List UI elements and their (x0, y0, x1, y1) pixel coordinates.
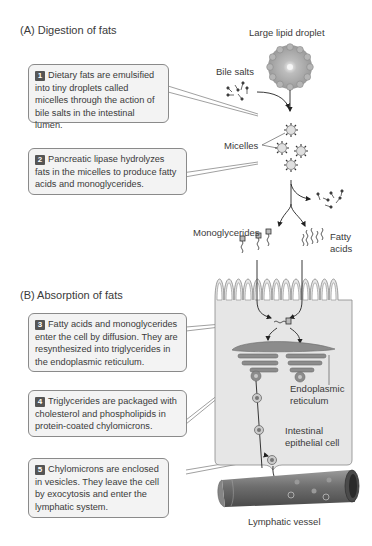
label-fatty-acids-line2: acids (330, 243, 352, 254)
step-1-text: Dietary fats are emulsified into tiny dr… (35, 70, 155, 130)
label-monoglycerides: Monoglycerides (193, 227, 260, 238)
step-2-number: 2 (35, 155, 45, 165)
step-2-text: Pancreatic lipase hydrolyzes fats in the… (35, 154, 176, 189)
step-3-number: 3 (35, 320, 45, 330)
label-large-lipid-droplet: Large lipid droplet (249, 27, 325, 38)
label-micelles: Micelles (224, 140, 258, 151)
step-5-box: 5Chylomicrons are enclosed in vesicles. … (28, 458, 169, 518)
micelles-icon (275, 123, 308, 172)
step-2-box: 2Pancreatic lipase hydrolyzes fats in th… (28, 148, 187, 195)
step-4-text: Triglycerides are packaged with choleste… (35, 396, 177, 431)
step-3-box: 3Fatty acids and monoglycerides enter th… (28, 313, 187, 372)
bile-salts-icon (227, 82, 248, 100)
step-5-text: Chylomicrons are enclosed in vesicles. T… (35, 464, 159, 512)
fatty-acids-icon (302, 228, 323, 246)
label-lymphatic-vessel: Lymphatic vessel (248, 516, 321, 527)
step-1-box: 1Dietary fats are emulsified into tiny d… (28, 64, 169, 123)
label-endoplasmic-line1: Endoplasmic (290, 383, 344, 394)
label-epithelial-line2: epithelial cell (285, 437, 339, 448)
step-5-number: 5 (35, 465, 45, 475)
lymphatic-vessel-icon (218, 470, 359, 507)
label-bile-salts: Bile salts (216, 66, 254, 77)
step-4-box: 4Triglycerides are packaged with cholest… (28, 390, 187, 437)
step-4-number: 4 (35, 397, 45, 407)
step-1-number: 1 (35, 71, 45, 81)
step-3-text: Fatty acids and monoglycerides enter the… (35, 319, 178, 367)
label-fatty-acids-line1: Fatty (330, 231, 351, 242)
released-bile-salts-icon (317, 190, 343, 208)
large-lipid-droplet-icon (267, 44, 314, 91)
label-epithelial-line1: Intestinal (285, 425, 323, 436)
label-endoplasmic-line2: reticulum (290, 395, 329, 406)
